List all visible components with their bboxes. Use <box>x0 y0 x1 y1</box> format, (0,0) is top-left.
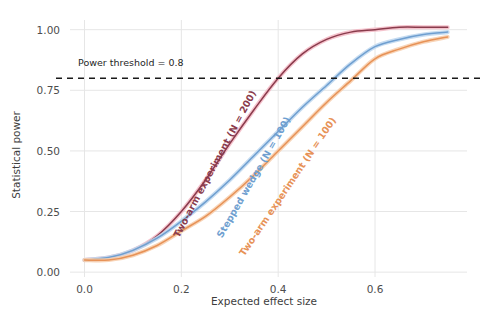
y-tick-label: 0.00 <box>37 266 60 278</box>
x-axis-title: Expected effect size <box>211 295 317 307</box>
x-tick-label: 0.6 <box>367 283 384 295</box>
power-curve-chart: 0.00.20.40.6 0.000.250.500.751.00 Two-ar… <box>0 0 503 317</box>
chart-canvas: 0.00.20.40.6 0.000.250.500.751.00 Two-ar… <box>0 0 503 317</box>
y-tick-label: 1.00 <box>37 24 60 36</box>
y-tick-label: 0.75 <box>37 84 60 96</box>
y-tick-label: 0.50 <box>37 145 60 157</box>
x-tick-label: 0.4 <box>270 283 287 295</box>
power-threshold-label: Power threshold = 0.8 <box>78 57 184 68</box>
x-tick-label: 0.2 <box>173 283 190 295</box>
y-axis-title: Statistical power <box>10 110 22 198</box>
x-tick-label: 0.0 <box>76 283 93 295</box>
y-tick-label: 0.25 <box>37 206 60 218</box>
